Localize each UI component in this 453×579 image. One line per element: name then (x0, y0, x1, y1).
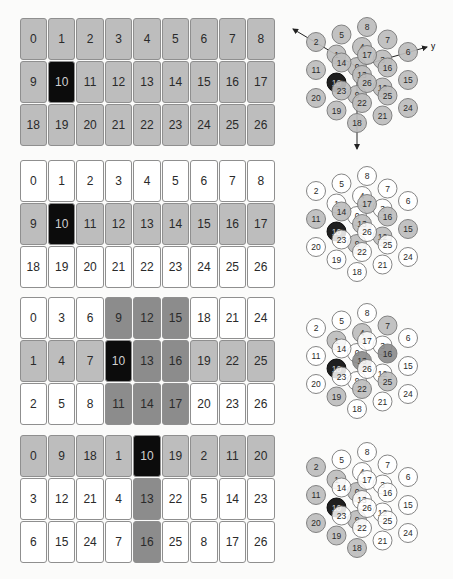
cube-node: 5 (332, 311, 351, 330)
grid-cell: 23 (162, 104, 189, 146)
grid-cell: 12 (48, 478, 75, 520)
grid-cell: 12 (105, 61, 132, 103)
cube-node: 23 (332, 506, 351, 525)
svg-text:6: 6 (406, 196, 411, 206)
cube-node: 22 (353, 94, 372, 113)
cube-node: 16 (378, 344, 397, 363)
grid-cell: 7 (219, 160, 246, 202)
svg-text:5: 5 (339, 179, 344, 189)
grid-cell: 0 (20, 297, 47, 339)
cube-node: 6 (399, 43, 418, 62)
svg-text:8: 8 (365, 447, 370, 457)
grid-cell: 8 (247, 160, 274, 202)
grid-cell: 5 (190, 478, 217, 520)
grid-cell: 17 (247, 203, 274, 245)
grid-cell: 18 (190, 297, 217, 339)
cube-node: 14 (332, 202, 351, 221)
cube-node: 15 (399, 71, 418, 90)
svg-text:17: 17 (362, 199, 372, 209)
svg-text:7: 7 (385, 184, 390, 194)
svg-text:11: 11 (312, 65, 321, 75)
svg-text:7: 7 (385, 35, 390, 45)
cube-node: 25 (378, 511, 397, 530)
cube-node: 18 (348, 400, 367, 419)
svg-text:8: 8 (365, 308, 370, 318)
cube-node: 20 (307, 375, 326, 394)
svg-text:22: 22 (357, 384, 367, 394)
grid-cell: 1 (48, 18, 75, 60)
grid-cell: 5 (48, 383, 75, 425)
grid-cell: 13 (133, 203, 160, 245)
grid-cell: 0 (20, 435, 47, 477)
grid-cell: 6 (20, 521, 47, 563)
svg-text:18: 18 (352, 404, 362, 414)
svg-text:24: 24 (403, 389, 413, 399)
svg-text:21: 21 (378, 536, 388, 546)
grid-cell: 11 (219, 435, 246, 477)
grid-cell: 10 (48, 61, 75, 103)
grid-cell: 5 (162, 18, 189, 60)
cube-node: 20 (307, 89, 326, 108)
svg-text:25: 25 (383, 91, 393, 101)
svg-text:15: 15 (403, 224, 413, 234)
svg-text:16: 16 (383, 349, 393, 359)
grid-cell: 16 (219, 61, 246, 103)
cube-node: 23 (332, 367, 351, 386)
grid-cell: 26 (247, 521, 274, 563)
svg-text:24: 24 (403, 103, 413, 113)
grid-cell: 0 (20, 18, 47, 60)
grid-cell: 15 (162, 297, 189, 339)
svg-text:23: 23 (337, 86, 347, 96)
grid-cell: 25 (247, 340, 274, 382)
grid-cell: 16 (162, 340, 189, 382)
cube-node: 17 (358, 46, 377, 65)
svg-text:8: 8 (365, 22, 370, 32)
svg-text:5: 5 (339, 316, 344, 326)
cube-node: 26 (358, 223, 377, 242)
svg-text:22: 22 (357, 98, 367, 108)
cube-node: 11 (307, 61, 326, 80)
grid-cell: 21 (105, 246, 132, 288)
svg-text:25: 25 (383, 516, 393, 526)
svg-text:6: 6 (406, 47, 411, 57)
cube-node: 26 (358, 74, 377, 93)
y-axis-label: y (431, 41, 436, 51)
cube-node: 7 (378, 455, 397, 474)
svg-text:7: 7 (385, 321, 390, 331)
svg-text:5: 5 (339, 455, 344, 465)
cube-node: 23 (332, 230, 351, 249)
cube-node: 15 (399, 357, 418, 376)
grid-cell: 18 (20, 104, 47, 146)
grid-cell: 17 (247, 61, 274, 103)
svg-text:19: 19 (332, 255, 342, 265)
cube-node: 25 (378, 372, 397, 391)
cube-node: 14 (332, 339, 351, 358)
grid-cell: 8 (247, 18, 274, 60)
cube-node: 18 (348, 539, 367, 558)
svg-text:11: 11 (312, 490, 321, 500)
grid-cell: 0 (20, 160, 47, 202)
cube-node: 26 (358, 499, 377, 518)
grid-cell: 25 (219, 246, 246, 288)
grid-cell: 16 (133, 521, 160, 563)
svg-text:20: 20 (311, 93, 321, 103)
svg-text:11: 11 (312, 214, 321, 224)
cube-node: 16 (378, 483, 397, 502)
grid-cell: 4 (105, 478, 132, 520)
grid-cell: 12 (133, 297, 160, 339)
svg-text:16: 16 (383, 488, 393, 498)
cube-node: 20 (307, 238, 326, 257)
cube-node: 25 (378, 235, 397, 254)
grid-cell: 7 (219, 18, 246, 60)
grid-cell: 9 (20, 61, 47, 103)
cube-diagram-2: 0918131012192124611131520222457141623258… (290, 150, 453, 300)
cube-node: 21 (373, 531, 392, 550)
svg-text:15: 15 (403, 361, 413, 371)
svg-text:17: 17 (362, 50, 372, 60)
cube-diagram-4: 0918131012192124611131520222457141623258… (290, 430, 453, 579)
cube-node: 6 (399, 468, 418, 487)
grid-cell: 14 (162, 203, 189, 245)
cube-node: 15 (399, 496, 418, 515)
svg-text:26: 26 (362, 78, 372, 88)
index-grid-4: 0918110192112031221413225142361524716258… (19, 434, 275, 563)
